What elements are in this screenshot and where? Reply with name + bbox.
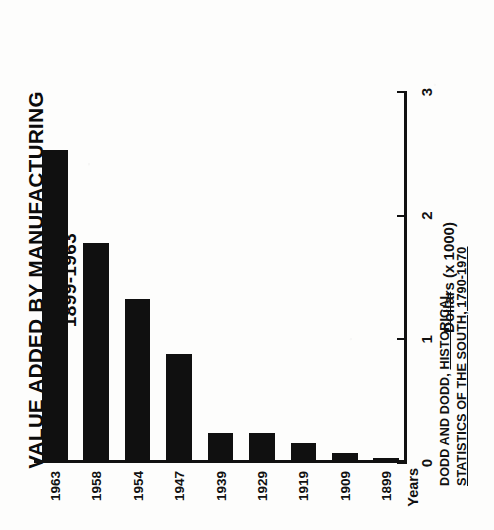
category-label-1899: 1899 <box>379 471 394 519</box>
bar-row <box>117 92 158 463</box>
bar-1919[interactable] <box>291 443 317 463</box>
category-label-1958: 1958 <box>89 471 104 519</box>
bar-row <box>283 92 324 463</box>
rotated-figure-container: VALUE ADDED BY MANUFACTURING 1899-1963 0… <box>0 0 494 530</box>
bar-row <box>366 92 407 463</box>
bar-row <box>34 92 75 463</box>
source-note: DODD AND DODD, HISTORICAL STATISTICS OF … <box>437 236 471 486</box>
scanned-page: VALUE ADDED BY MANUFACTURING 1899-1963 0… <box>0 0 494 530</box>
category-axis-title: Years <box>405 468 421 530</box>
bar-chart-figure: VALUE ADDED BY MANUFACTURING 1899-1963 0… <box>0 0 494 530</box>
value-axis-tick-label-0: 0 <box>418 459 435 467</box>
bar-1954[interactable] <box>125 299 151 463</box>
bar-series: 189919091919192919391947195419581963 <box>34 92 407 463</box>
category-label-1947: 1947 <box>172 471 187 519</box>
bar-1947[interactable] <box>166 354 192 463</box>
category-label-1929: 1929 <box>254 471 269 519</box>
bar-row <box>241 92 282 463</box>
bar-1958[interactable] <box>83 243 109 463</box>
category-label-1954: 1954 <box>130 471 145 519</box>
value-axis-tick-label-2: 2 <box>418 212 435 220</box>
bar-row <box>75 92 116 463</box>
value-axis-tick-label-3: 3 <box>418 88 435 96</box>
source-note-prefix: DODD AND DODD, <box>438 370 452 486</box>
category-label-1919: 1919 <box>296 471 311 519</box>
plot-area: 0123 18991909191919291939194719541958196… <box>92 92 407 463</box>
value-axis-tick-label-1: 1 <box>418 335 435 343</box>
bar-1929[interactable] <box>249 433 275 463</box>
bar-row <box>324 92 365 463</box>
category-label-1909: 1909 <box>337 471 352 519</box>
bar-1963[interactable] <box>42 150 68 463</box>
bar-1909[interactable] <box>332 453 358 463</box>
bar-1939[interactable] <box>208 433 234 463</box>
bar-row <box>200 92 241 463</box>
bar-1899[interactable] <box>373 458 399 463</box>
category-label-1963: 1963 <box>47 471 62 519</box>
category-label-1939: 1939 <box>213 471 228 519</box>
bar-row <box>158 92 199 463</box>
